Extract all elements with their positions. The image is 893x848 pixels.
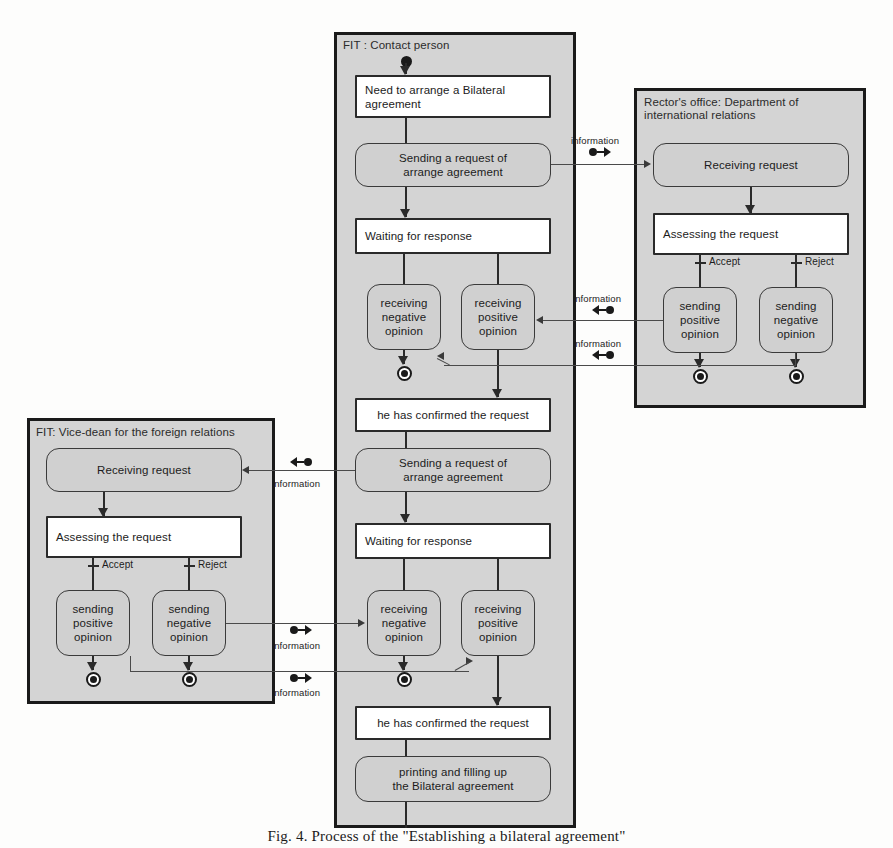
node-vd-send-positive: sending positive opinion xyxy=(56,590,130,656)
signal-arrowhead-icon xyxy=(305,673,312,683)
end-node-vd-negative xyxy=(182,672,197,687)
signal-symbol-4 xyxy=(290,457,312,467)
signalflow-2-line xyxy=(542,320,663,321)
signal-shaft-icon xyxy=(297,461,304,464)
signalflow-3-riser xyxy=(795,353,796,366)
node-waiting-response-2: Waiting for response xyxy=(355,523,551,559)
end-node-ro-positive xyxy=(693,369,708,384)
signalflow-1-line xyxy=(551,164,646,165)
signal-shaft-icon xyxy=(599,354,606,357)
guard-label-vd-accept: Accept xyxy=(102,559,133,570)
signal-arrowhead-icon xyxy=(290,457,297,467)
flow-vd-accept xyxy=(92,558,94,591)
node-need-agreement: Need to arrange a Bilateral agreement xyxy=(355,75,551,118)
guard-tick-vd-accept xyxy=(88,565,99,567)
node-vd-receiving-request: Receiving request xyxy=(46,448,242,492)
signal-ball-icon xyxy=(290,674,298,682)
arrowhead-signalflow-1 xyxy=(644,160,651,168)
flow-ro-accept xyxy=(699,255,701,288)
node-receiving-positive-1: receiving positive opinion xyxy=(461,284,535,350)
node-vd-send-negative: sending negative opinion xyxy=(152,590,226,656)
arrowhead-ro-pos-end xyxy=(694,359,704,368)
swimlane-contact-person-title: FIT : Contact person xyxy=(343,39,568,52)
signal-label-6: information xyxy=(272,687,320,698)
arrowhead-vd-neg-end xyxy=(183,662,193,671)
signal-symbol-1 xyxy=(589,147,611,157)
figure-caption: Fig. 4. Process of the "Establishing a b… xyxy=(0,828,893,845)
signal-arrowhead-icon xyxy=(305,625,312,635)
node-confirmed-2: he has confirmed the request xyxy=(355,706,551,740)
signal-symbol-6 xyxy=(290,673,312,683)
signal-shaft-icon xyxy=(599,309,606,312)
swimlane-rectors-office-title: Rector's office: Department of internati… xyxy=(644,96,859,122)
node-printing-agreement: printing and filling up the Bilateral ag… xyxy=(355,756,551,802)
node-sending-request-1: Sending a request of arrange agreement xyxy=(355,143,551,187)
end-node-ro-negative xyxy=(789,369,804,384)
flow-waiting1-left-branch xyxy=(403,254,405,285)
guard-tick-ro-accept xyxy=(695,262,706,264)
arrowhead-recvpos2-confirmed2 xyxy=(492,697,502,706)
signal-shaft-icon xyxy=(597,151,604,154)
signal-symbol-3 xyxy=(592,350,614,360)
node-confirmed-1: he has confirmed the request xyxy=(355,398,551,432)
flow-waiting1-right-branch xyxy=(497,254,499,285)
guard-label-vd-reject: Reject xyxy=(198,559,227,570)
node-receiving-positive-2: receiving positive opinion xyxy=(461,590,535,656)
signal-label-2: information xyxy=(573,293,621,304)
node-ro-assessing-request: Assessing the request xyxy=(653,213,849,255)
node-receiving-negative-1: receiving negative opinion xyxy=(367,284,441,350)
signal-symbol-2 xyxy=(592,305,614,315)
guard-label-ro-reject: Reject xyxy=(805,256,834,267)
end-node-negative-1 xyxy=(397,366,412,381)
flow-waiting2-right-branch xyxy=(497,559,499,591)
node-sending-request-2: Sending a request of arrange agreement xyxy=(355,448,551,492)
arrowhead-vd-pos-end xyxy=(87,662,97,671)
signal-ball-icon xyxy=(304,458,312,466)
signal-ball-icon xyxy=(606,351,614,359)
signal-label-1: information xyxy=(571,135,619,146)
end-node-vd-positive xyxy=(86,672,101,687)
flow-vd-reject xyxy=(188,558,190,591)
guard-tick-ro-reject xyxy=(791,262,802,264)
signal-shaft-icon xyxy=(298,677,305,680)
signal-ball-icon xyxy=(589,148,597,156)
swimlane-vice-dean-title: FIT: Vice-dean for the foreign relations xyxy=(36,426,271,439)
signal-shaft-icon xyxy=(298,629,305,632)
signal-arrowhead-icon xyxy=(592,350,599,360)
signal-arrowhead-icon xyxy=(604,147,611,157)
signal-ball-icon xyxy=(290,626,298,634)
flow-waiting2-left-branch xyxy=(403,559,405,591)
guard-label-ro-accept: Accept xyxy=(709,256,740,267)
flow-printing-out xyxy=(405,802,407,828)
end-node-negative-2 xyxy=(397,672,412,687)
signal-label-4: information xyxy=(272,478,320,489)
node-ro-send-negative: sending negative opinion xyxy=(759,287,833,353)
arrowhead-signalflow-5 xyxy=(358,619,365,627)
arrowhead-recvneg2-end xyxy=(398,662,408,671)
activity-diagram: Rector's office: Department of internati… xyxy=(0,0,893,848)
flow-ro-reject xyxy=(795,255,797,288)
flow-need-to-sending1 xyxy=(405,118,407,144)
arrowhead-sending1-to-waiting1 xyxy=(400,209,410,218)
signalflow-6-riser xyxy=(130,656,131,672)
arrowhead-signalflow-4 xyxy=(242,466,249,474)
signal-arrowhead-icon xyxy=(592,305,599,315)
signalflow-3-line xyxy=(444,365,796,366)
node-waiting-response-1: Waiting for response xyxy=(355,218,551,254)
node-ro-receiving-request: Receiving request xyxy=(653,143,849,187)
guard-tick-vd-reject xyxy=(184,565,195,567)
arrowhead-start-to-need xyxy=(400,66,410,75)
flow-confirmed2-to-printing xyxy=(405,740,407,757)
signal-symbol-5 xyxy=(290,625,312,635)
node-ro-send-positive: sending positive opinion xyxy=(663,287,737,353)
arrowhead-signalflow-2 xyxy=(536,316,543,324)
flow-confirmed1-to-sending2 xyxy=(405,432,407,449)
node-receiving-negative-2: receiving negative opinion xyxy=(367,590,441,656)
signalflow-4-line xyxy=(249,470,355,471)
arrowhead-recvpos1-confirmed1 xyxy=(492,389,502,398)
node-vd-assessing-request: Assessing the request xyxy=(46,516,242,558)
signal-ball-icon xyxy=(606,306,614,314)
signal-label-3: information xyxy=(573,338,621,349)
signal-label-5: information xyxy=(272,640,320,651)
arrowhead-sending2-waiting2 xyxy=(400,514,410,523)
